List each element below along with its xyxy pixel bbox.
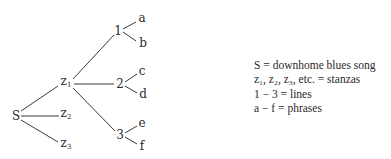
node-stanza-z3: z3 xyxy=(61,137,72,153)
edge-3-f xyxy=(125,137,137,144)
node-stanza-z2: z2 xyxy=(61,107,72,123)
node-phrase-f: f xyxy=(140,140,144,152)
node-stanza-z1-subscript: 1 xyxy=(67,81,71,89)
legend-item-song: S = downhome blues song xyxy=(254,58,376,72)
edge-3-e xyxy=(125,126,137,133)
edge-1-a xyxy=(123,22,136,29)
node-stanza-z1: z1 xyxy=(61,75,72,91)
node-stanza-z3-subscript: 3 xyxy=(67,143,71,151)
edge-z1-3 xyxy=(73,88,115,131)
edge-2-c xyxy=(125,74,137,82)
node-phrase-c: c xyxy=(139,65,146,77)
edge-s-z1 xyxy=(21,86,58,111)
legend-item-lines: 1 − 3 = lines xyxy=(254,87,376,101)
node-line-2: 2 xyxy=(116,78,124,90)
node-line-3: 3 xyxy=(116,129,124,141)
node-phrase-b: b xyxy=(139,37,147,49)
edge-z1-1 xyxy=(73,35,114,79)
legend-item-phrases: a − f = phrases xyxy=(254,101,376,115)
edge-s-z3 xyxy=(21,120,58,142)
node-stanza-z2-subscript: 2 xyxy=(67,113,71,121)
node-song-s: S xyxy=(12,110,20,122)
legend: S = downhome blues song z₁, z₂, z₃, etc.… xyxy=(254,58,376,115)
node-phrase-a: a xyxy=(138,12,145,24)
node-phrase-d: d xyxy=(139,88,147,100)
edge-1-b xyxy=(123,32,136,41)
node-line-1: 1 xyxy=(114,25,122,37)
node-phrase-e: e xyxy=(138,117,145,129)
edge-2-d xyxy=(125,86,137,93)
legend-item-stanzas: z₁, z₂, z₃, etc. = stanzas xyxy=(254,72,376,86)
